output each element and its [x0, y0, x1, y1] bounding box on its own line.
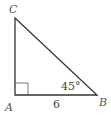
triangle-diagram: C A B 45° 6 [0, 0, 111, 117]
right-angle-marker [15, 83, 28, 95]
triangle-abc [15, 18, 97, 95]
vertex-label-b: B [98, 96, 107, 109]
vertex-label-c: C [9, 3, 18, 16]
vertex-label-a: A [4, 101, 13, 114]
side-ab-label: 6 [53, 98, 60, 111]
angle-b-label: 45° [61, 80, 81, 93]
